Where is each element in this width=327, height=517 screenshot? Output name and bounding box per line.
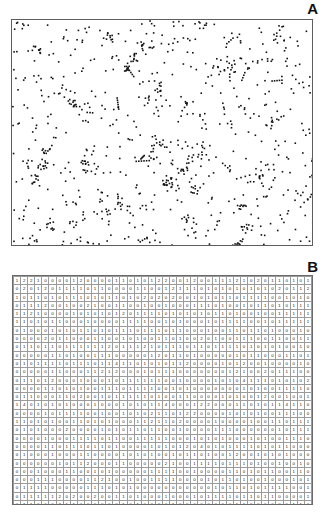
quadrat-cell: 0 <box>184 467 191 475</box>
quadrat-cell: 0 <box>219 459 226 467</box>
quadrat-cell: 1 <box>233 343 240 351</box>
quadrat-cell: 1 <box>297 418 304 426</box>
quadrat-cell: 0 <box>269 359 276 367</box>
quadrat-cell: 0 <box>106 277 113 285</box>
quadrat-cell: 0 <box>219 467 226 475</box>
quadrat-cell: 1 <box>49 451 56 459</box>
quadrat-cell: 0 <box>35 409 42 417</box>
quadrat-cell: 1 <box>233 326 240 334</box>
quadrat-cell: 0 <box>120 476 127 484</box>
quadrat-cell: 0 <box>276 476 283 484</box>
quadrat-cell: 2 <box>233 368 240 376</box>
quadrat-cell: 0 <box>212 318 219 326</box>
quadrat-cell: 0 <box>134 351 141 359</box>
quadrat-cell: 0 <box>21 409 28 417</box>
quadrat-cell: 2 <box>155 293 162 301</box>
quadrat-cell: 0 <box>233 384 240 392</box>
quadrat-cell: 1 <box>56 351 63 359</box>
quadrat-row: 1401010100010001010114000122000110101141… <box>14 401 312 409</box>
quadrat-cell: 1 <box>191 459 198 467</box>
quadrat-cell: 1 <box>269 277 276 285</box>
quadrat-cell: 1 <box>99 326 106 334</box>
quadrat-cell: 1 <box>77 285 84 293</box>
quadrat-cell: 0 <box>28 335 35 343</box>
quadrat-cell: 0 <box>269 459 276 467</box>
quadrat-cell: 1 <box>269 326 276 334</box>
quadrat-row: 1101010011010100011211020000100001001101… <box>14 418 312 426</box>
quadrat-cell: 1 <box>84 359 91 367</box>
quadrat-cell: 0 <box>262 335 269 343</box>
quadrat-cell: 1 <box>127 376 134 384</box>
quadrat-cell: 1 <box>35 476 42 484</box>
quadrat-cell: 0 <box>49 335 56 343</box>
quadrat-cell: 0 <box>198 326 205 334</box>
quadrat-cell: 0 <box>42 326 49 334</box>
quadrat-cell: 0 <box>297 376 304 384</box>
quadrat-cell: 1 <box>92 285 99 293</box>
quadrat-cell: 1 <box>92 368 99 376</box>
quadrat-cell: 0 <box>92 501 99 505</box>
quadrat-cell: 1 <box>226 318 233 326</box>
quadrat-cell: 0 <box>198 376 205 384</box>
quadrat-cell: 0 <box>127 310 134 318</box>
quadrat-cell: 1 <box>141 418 148 426</box>
quadrat-cell: 1 <box>177 409 184 417</box>
quadrat-cell: 1 <box>297 310 304 318</box>
quadrat-cell: 1 <box>113 442 120 450</box>
quadrat-cell: 0 <box>63 434 70 442</box>
quadrat-cell: 1 <box>304 335 311 343</box>
quadrat-cell: 0 <box>70 393 77 401</box>
quadrat-cell: 0 <box>205 484 212 492</box>
quadrat-cell: 1 <box>63 409 70 417</box>
quadrat-cell: 1 <box>162 476 169 484</box>
quadrat-cell: 1 <box>162 335 169 343</box>
quadrat-cell: 0 <box>255 467 262 475</box>
quadrat-cell: 0 <box>56 442 63 450</box>
quadrat-cell: 0 <box>170 492 177 500</box>
quadrat-cell: 1 <box>233 359 240 367</box>
quadrat-cell: 0 <box>255 434 262 442</box>
quadrat-cell: 1 <box>212 484 219 492</box>
quadrat-cell: 0 <box>106 401 113 409</box>
quadrat-row: 0101111011101141101010112000010120010000… <box>14 359 312 367</box>
quadrat-cell: 0 <box>184 401 191 409</box>
quadrat-cell: 0 <box>84 418 91 426</box>
quadrat-cell: 0 <box>177 368 184 376</box>
quadrat-cell: 0 <box>92 384 99 392</box>
quadrat-cell: 0 <box>233 492 240 500</box>
quadrat-cell: 1 <box>70 409 77 417</box>
quadrat-cell: 0 <box>177 501 184 505</box>
quadrat-cell: 0 <box>92 318 99 326</box>
quadrat-cell: 0 <box>184 343 191 351</box>
quadrat-cell: 1 <box>99 285 106 293</box>
quadrat-cell: 0 <box>276 467 283 475</box>
quadrat-cell: 0 <box>269 285 276 293</box>
quadrat-cell: 1 <box>155 310 162 318</box>
quadrat-cell: 1 <box>141 318 148 326</box>
quadrat-cell: 1 <box>134 401 141 409</box>
quadrat-cell: 0 <box>56 434 63 442</box>
quadrat-cell: 1 <box>262 484 269 492</box>
quadrat-cell: 0 <box>219 418 226 426</box>
quadrat-cell: 2 <box>113 368 120 376</box>
quadrat-cell: 0 <box>290 484 297 492</box>
quadrat-cell: 1 <box>205 318 212 326</box>
quadrat-cell: 1 <box>184 310 191 318</box>
quadrat-cell: 0 <box>276 293 283 301</box>
quadrat-cell: 0 <box>14 368 21 376</box>
quadrat-cell: 0 <box>184 351 191 359</box>
quadrat-cell: 0 <box>198 384 205 392</box>
quadrat-cell: 0 <box>14 451 21 459</box>
panel-b: B 12210000120000110101220012001112102011… <box>0 258 327 517</box>
quadrat-cell: 2 <box>99 476 106 484</box>
quadrat-cell: 1 <box>276 401 283 409</box>
quadrat-cell: 1 <box>28 492 35 500</box>
quadrat-cell: 0 <box>84 426 91 434</box>
quadrat-cell: 0 <box>99 467 106 475</box>
quadrat-cell: 0 <box>283 301 290 309</box>
quadrat-cell: 1 <box>255 376 262 384</box>
quadrat-cell: 0 <box>106 393 113 401</box>
quadrat-cell: 0 <box>248 359 255 367</box>
quadrat-cell: 1 <box>21 301 28 309</box>
quadrat-cell: 0 <box>84 401 91 409</box>
